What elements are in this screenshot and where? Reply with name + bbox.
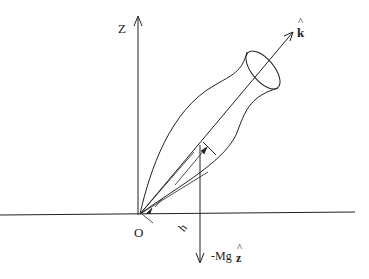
gravity-force-label: -Mg [211, 250, 232, 262]
origin-label: O [134, 226, 143, 239]
diagram-canvas [0, 0, 369, 279]
gravity-unit-label: z [236, 252, 241, 264]
pivot-tick [142, 214, 153, 223]
body-outline-left [140, 52, 247, 214]
k-axis-label: k [297, 26, 304, 39]
ground-line [0, 212, 355, 215]
z-axis-label: Z [118, 22, 126, 35]
symmetry-axis [140, 32, 293, 214]
